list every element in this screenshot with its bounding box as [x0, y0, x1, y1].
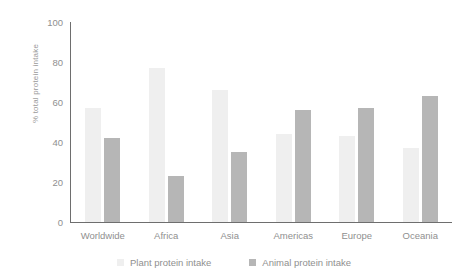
plot-area: 0 20 40 60 80 100 [70, 22, 452, 222]
legend-label: Animal protein intake [262, 257, 351, 268]
bar [85, 108, 101, 222]
legend-swatch-icon [117, 259, 124, 266]
bar-group [71, 22, 135, 222]
bar [358, 108, 374, 222]
y-tick-60: 60 [52, 97, 63, 108]
bar-group [325, 22, 389, 222]
x-axis-label: Americas [262, 230, 326, 241]
bar-group [262, 22, 326, 222]
bar [104, 138, 120, 222]
bar [276, 134, 292, 222]
bar [168, 176, 184, 222]
bar-groups [71, 22, 452, 222]
x-axis-label: Oceania [389, 230, 453, 241]
x-axis-line [70, 222, 452, 223]
legend-item[interactable]: Plant protein intake [117, 257, 211, 268]
x-axis-label: Worldwide [71, 230, 135, 241]
bar [403, 148, 419, 222]
y-tick-80: 80 [52, 57, 63, 68]
bar [295, 110, 311, 222]
y-tick-40: 40 [52, 137, 63, 148]
legend-item[interactable]: Animal protein intake [249, 257, 351, 268]
legend-swatch-icon [249, 259, 256, 266]
bar-group [389, 22, 453, 222]
bar [422, 96, 438, 222]
x-axis-label: Europe [325, 230, 389, 241]
legend-label: Plant protein intake [130, 257, 211, 268]
bar-chart: % total protein intake 0 20 40 60 80 100… [0, 0, 468, 280]
y-axis-title: % total protein intake [31, 9, 40, 159]
y-tick-100: 100 [47, 17, 63, 28]
x-axis-label: Africa [135, 230, 199, 241]
x-axis-labels: WorldwideAfricaAsiaAmericasEuropeOceania [71, 230, 452, 241]
x-axis-label: Asia [198, 230, 262, 241]
bar-group [135, 22, 199, 222]
bar [231, 152, 247, 222]
chart-legend: Plant protein intakeAnimal protein intak… [0, 257, 468, 268]
bar [212, 90, 228, 222]
y-tick-20: 20 [52, 177, 63, 188]
bar-group [198, 22, 262, 222]
bar [149, 68, 165, 222]
y-tick-0: 0 [58, 217, 63, 228]
bar [339, 136, 355, 222]
